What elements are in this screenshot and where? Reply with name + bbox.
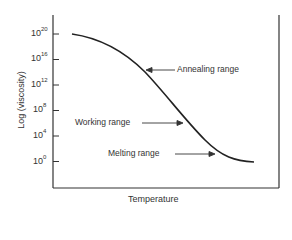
annotation-working-range: Working range — [75, 117, 130, 127]
y-ticks — [53, 34, 59, 162]
annealing-arrow — [146, 68, 175, 73]
y-axis-label: Log (viscosity) — [16, 65, 26, 135]
ytick-label-4: 104 — [33, 129, 46, 140]
ytick-label-20: 1020 — [31, 27, 48, 38]
x-axis-label: Temperature — [128, 194, 179, 204]
ytick-label-16: 1016 — [31, 52, 48, 63]
ytick-label-0: 100 — [33, 155, 46, 166]
annotation-annealing-range: Annealing range — [177, 64, 239, 74]
melting-arrow — [175, 152, 215, 157]
working-arrow — [142, 121, 183, 126]
ytick-label-8: 108 — [33, 103, 46, 114]
ytick-label-12: 1012 — [31, 78, 48, 89]
viscosity-curve — [72, 34, 254, 162]
annotation-melting-range: Melting range — [108, 148, 160, 158]
